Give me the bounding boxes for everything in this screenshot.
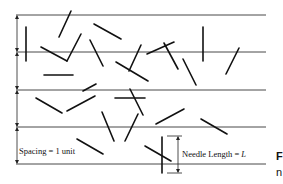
- needle: [145, 146, 171, 161]
- needle: [183, 59, 196, 85]
- needle: [130, 89, 143, 115]
- needle: [90, 40, 103, 66]
- spacing-label: Spacing = 1 unit: [19, 146, 76, 156]
- needle: [201, 119, 227, 134]
- spacing-dimension-arrows: [15, 15, 19, 164]
- needle: [129, 45, 141, 71]
- needle: [36, 98, 62, 113]
- needle: [77, 139, 103, 154]
- needle: [164, 43, 178, 69]
- needle-length-dimension: [162, 136, 182, 173]
- needle: [94, 24, 121, 39]
- needles: [26, 11, 239, 161]
- caption-fragment-1: F: [276, 150, 283, 162]
- buffon-needle-diagram: Spacing = 1 unit Needle Length = L F n: [0, 0, 283, 184]
- needle: [67, 34, 81, 61]
- needle-length-label: Needle Length = L: [182, 149, 246, 159]
- needle: [125, 114, 138, 141]
- parallel-lines: [16, 15, 266, 164]
- needle: [102, 112, 114, 141]
- needle: [67, 96, 95, 111]
- needle: [156, 109, 184, 124]
- needle: [41, 47, 67, 61]
- caption-fragment-2: n: [276, 166, 282, 178]
